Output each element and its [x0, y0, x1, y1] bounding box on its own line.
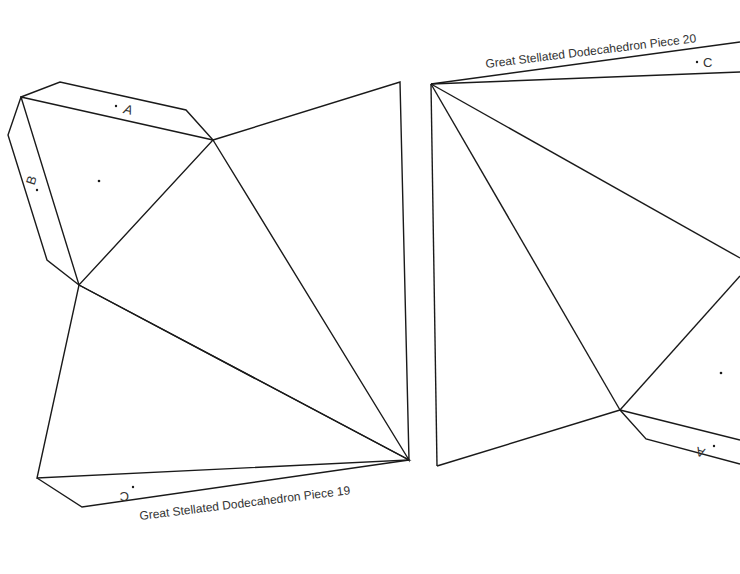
tab-c-dot [696, 61, 698, 63]
tab-b-dot [36, 189, 38, 191]
tab-a-dot [115, 105, 117, 107]
tab-b-label: B [23, 174, 40, 187]
piece-19: A B C Great Stellated Dodecahedron Piece… [8, 82, 409, 523]
piece-20: C A Great Stellated Dodecahedron Piece 2… [431, 31, 740, 466]
diagonal-edge [431, 84, 740, 258]
center-dot [98, 180, 101, 183]
fold-line [431, 84, 620, 410]
left-edge [431, 84, 437, 466]
tab-a [21, 82, 213, 140]
tab-a-outer [620, 410, 740, 464]
piece-20-title: Great Stellated Dodecahedron Piece 20 [485, 31, 698, 71]
bottom-edge [437, 410, 620, 466]
right-edge [620, 276, 740, 410]
face-top-triangle [21, 97, 213, 285]
net-diagram: A B C Great Stellated Dodecahedron Piece… [0, 0, 740, 574]
piece-19-title: Great Stellated Dodecahedron Piece 19 [139, 483, 352, 523]
center-dot [720, 372, 723, 375]
tab-a-dot [713, 445, 715, 447]
tab-c-label: C [120, 489, 129, 504]
tab-c-label: C [703, 55, 712, 70]
face-bottom-triangle [37, 285, 409, 478]
tab-a-inner [620, 410, 740, 440]
face-right-triangle [213, 82, 409, 460]
tab-b [8, 97, 79, 285]
tab-a-label: A [121, 101, 134, 118]
tab-c-dot [132, 486, 134, 488]
